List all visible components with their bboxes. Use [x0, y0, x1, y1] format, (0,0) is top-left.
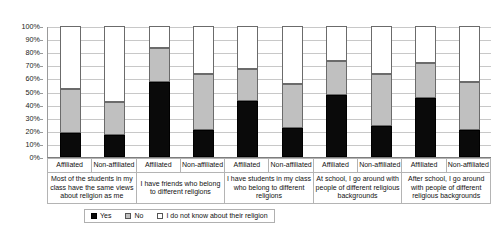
y-axis-tick-mark [40, 119, 43, 120]
bar-segment[interactable] [237, 69, 258, 100]
bar-segment[interactable] [371, 74, 392, 125]
bar-segment[interactable] [104, 102, 125, 135]
bar-segment[interactable] [459, 82, 480, 129]
plot-wrapper [47, 27, 491, 158]
question-label: I have friends who belong to different r… [136, 173, 225, 204]
y-axis-tick-label: 40% [26, 102, 40, 110]
bar-segment[interactable] [282, 128, 303, 157]
legend-label: No [134, 212, 143, 220]
bar-segment[interactable] [326, 61, 347, 95]
affiliation-label: Non-affiliated [269, 159, 313, 173]
affiliation-label: Affiliated [136, 159, 180, 173]
bar[interactable] [282, 26, 303, 157]
question-label: At school, I go around with people of di… [313, 173, 402, 204]
affiliation-label: Affiliated [402, 159, 446, 173]
bar[interactable] [237, 26, 258, 157]
y-axis-tick-mark [40, 66, 43, 67]
bar-segment[interactable] [193, 74, 214, 129]
y-axis-tick-label: 90% [26, 36, 40, 44]
bar-segment[interactable] [60, 133, 81, 157]
y-axis-tick-label: 100% [22, 23, 40, 31]
legend-item[interactable]: I do not know about their religion [157, 212, 267, 220]
legend-label: I do not know about their religion [166, 212, 267, 220]
affiliation-label: Non-affiliated [92, 159, 136, 173]
question-label: After school, I go around with people of… [402, 173, 491, 204]
affiliation-label: Non-affiliated [180, 159, 224, 173]
bar-segment[interactable] [459, 26, 480, 82]
bar-segment[interactable] [149, 48, 170, 82]
y-axis-tick-mark [40, 53, 43, 54]
swatch-yes-icon [91, 213, 97, 219]
legend-item[interactable]: Yes [91, 212, 111, 220]
bar-segment[interactable] [415, 26, 436, 63]
y-axis-tick-label: 50% [26, 89, 40, 97]
bar-segment[interactable] [415, 63, 436, 98]
bar-segment[interactable] [326, 26, 347, 61]
bar[interactable] [104, 26, 125, 157]
question-label: I have students in my class who belong t… [225, 173, 314, 204]
question-label-row: Most of the students in my class have th… [48, 173, 491, 204]
y-axis-tick-mark [40, 79, 43, 80]
category-label-table: AffiliatedNon-affiliatedAffiliatedNon-af… [47, 158, 491, 204]
legend-item[interactable]: No [125, 212, 143, 220]
y-axis-tick-mark [40, 40, 43, 41]
bar[interactable] [149, 26, 170, 157]
stacked-bar-chart: 100%90%80%70%60%50%40%30%20%10%0% Affili… [0, 0, 498, 227]
y-axis-tick-mark [40, 27, 43, 28]
bar[interactable] [326, 26, 347, 157]
plot-area [47, 27, 491, 158]
bar-segment[interactable] [193, 26, 214, 74]
bar[interactable] [193, 26, 214, 157]
y-axis-tick-mark [40, 106, 43, 107]
affiliation-label-row: AffiliatedNon-affiliatedAffiliatedNon-af… [48, 159, 491, 173]
bar-segment[interactable] [60, 89, 81, 134]
bar-segment[interactable] [459, 130, 480, 158]
y-axis-tick-mark [40, 93, 43, 94]
bar-segment[interactable] [60, 26, 81, 89]
y-axis-tick-label: 30% [26, 115, 40, 123]
y-axis-tick-label: 20% [26, 128, 40, 136]
bar-segment[interactable] [282, 84, 303, 129]
y-axis-tick-label: 70% [26, 62, 40, 70]
bar-segment[interactable] [415, 98, 436, 157]
bar[interactable] [459, 26, 480, 157]
bar-segment[interactable] [104, 135, 125, 157]
bar-segment[interactable] [104, 26, 125, 102]
affiliation-label: Affiliated [225, 159, 269, 173]
swatch-no-icon [125, 213, 131, 219]
affiliation-label: Affiliated [48, 159, 92, 173]
bar[interactable] [415, 26, 436, 157]
y-axis-tick-mark [40, 132, 43, 133]
y-axis-tick-mark [40, 145, 43, 146]
bar-segment[interactable] [326, 95, 347, 157]
bar-segment[interactable] [149, 82, 170, 157]
question-label: Most of the students in my class have th… [48, 173, 137, 204]
bar-segment[interactable] [193, 130, 214, 158]
y-axis-tick-label: 10% [26, 141, 40, 149]
bar[interactable] [60, 26, 81, 157]
y-axis: 100%90%80%70%60%50%40%30%20%10%0% [0, 20, 43, 165]
y-axis-tick-mark [40, 158, 43, 159]
bar-segment[interactable] [371, 26, 392, 74]
y-axis-tick-label: 0% [30, 154, 40, 162]
y-axis-tick-label: 60% [26, 75, 40, 83]
bar-segment[interactable] [237, 101, 258, 157]
bar-segment[interactable] [237, 26, 258, 69]
affiliation-label: Non-affiliated [446, 159, 490, 173]
chart-legend: YesNoI do not know about their religion [84, 209, 275, 223]
bar[interactable] [371, 26, 392, 157]
y-axis-tick-label: 80% [26, 49, 40, 57]
bar-segment[interactable] [282, 26, 303, 84]
legend-label: Yes [100, 212, 111, 220]
affiliation-label: Affiliated [313, 159, 357, 173]
bar-segment[interactable] [371, 126, 392, 157]
swatch-unknown-icon [157, 213, 163, 219]
affiliation-label: Non-affiliated [358, 159, 402, 173]
bar-segment[interactable] [149, 26, 170, 48]
